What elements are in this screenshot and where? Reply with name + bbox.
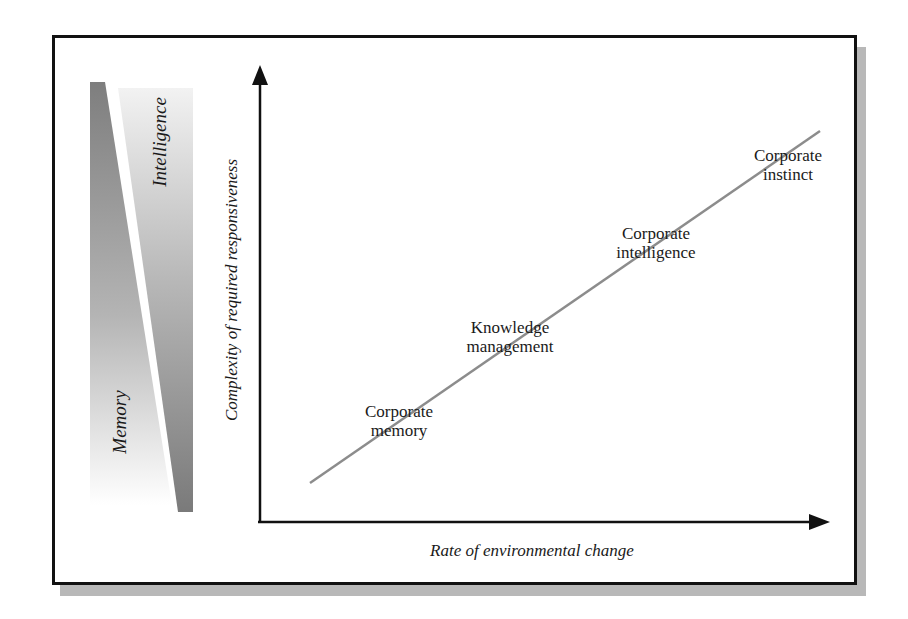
stage-line2: intelligence [596, 243, 716, 262]
stage-corporate-intelligence: Corporate intelligence [596, 224, 716, 262]
stage-line1: Knowledge [445, 318, 575, 337]
stage-line1: Corporate [596, 224, 716, 243]
memory-label: Memory [108, 372, 132, 472]
y-axis-label: Complexity of required responsiveness [221, 140, 243, 440]
x-axis-label: Rate of environmental change [382, 541, 682, 560]
stage-line1: Corporate [730, 146, 846, 165]
stage-line2: management [445, 337, 575, 356]
stage-corporate-memory: Corporate memory [339, 402, 459, 440]
stage-line2: instinct [730, 165, 846, 184]
intelligence-label: Intelligence [148, 92, 172, 192]
y-axis-arrow-icon [252, 65, 268, 85]
x-axis-arrow-icon [809, 514, 830, 530]
stage-knowledge-management: Knowledge management [445, 318, 575, 356]
stage-corporate-instinct: Corporate instinct [730, 146, 846, 184]
stage-line1: Corporate [339, 402, 459, 421]
stage-line2: memory [339, 421, 459, 440]
diagram-canvas [0, 0, 908, 619]
